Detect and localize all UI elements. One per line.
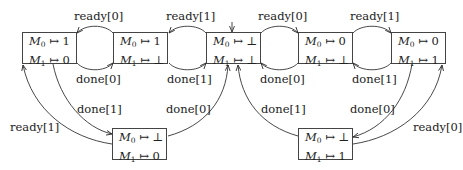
arrow-s1-s2-done0 — [77, 63, 113, 70]
label-done0-s6-s3: done[0] — [166, 103, 211, 116]
label-ready0-s3-s4: ready[0] — [258, 10, 307, 23]
label-done1-s2-s3: done[1] — [167, 73, 212, 86]
arrow-s2-s1-ready0 — [77, 26, 113, 33]
state-m0-1-m1-bot: M0 ↦ 1 M1 ↦ ⊥ — [113, 32, 168, 64]
label-ready0-s2-s1: ready[0] — [74, 10, 123, 23]
label-ready1-s6-s1: ready[1] — [10, 121, 59, 134]
arrow-s3-s4-ready0 — [261, 26, 298, 33]
arrow-s4-s3-done0 — [261, 63, 298, 70]
label-done0-s1-s2: done[0] — [76, 73, 121, 86]
arrow-s4-s5-ready1 — [353, 26, 391, 33]
label-done1-s5-s4: done[1] — [352, 73, 397, 86]
arrow-s5-s4-done1 — [353, 63, 391, 70]
state-m0-bot-m1-0: M0 ↦ ⊥ M1 ↦ 0 — [112, 128, 167, 160]
label-ready1-s3-s2: ready[1] — [166, 10, 215, 23]
state-m0-1-m1-0: M0 ↦ 1 M1 ↦ 0 — [22, 32, 77, 64]
state-m0-bot-m1-1: M0 ↦ ⊥ M1 ↦ 1 — [298, 128, 353, 160]
state-m0-0-m1-1: M0 ↦ 0 M1 ↦ 1 — [391, 32, 446, 64]
state-diagram: M0 ↦ 1 M1 ↦ 0 M0 ↦ 1 M1 ↦ ⊥ M0 ↦ ⊥ M1 ↦ … — [0, 0, 463, 170]
state-initial-m0-bot-m1-bot: M0 ↦ ⊥ M1 ↦ ⊥ — [206, 32, 261, 64]
label-ready1-s4-s5: ready[1] — [350, 10, 399, 23]
label-done0-s5-s7: done[0] — [350, 103, 395, 116]
label-done1-s1-s6: done[1] — [77, 103, 122, 116]
label-ready0-s7-s5: ready[0] — [413, 121, 462, 134]
state-m0-0-m1-bot: M0 ↦ 0 M1 ↦ ⊥ — [298, 32, 353, 64]
label-done0-s4-s3: done[0] — [260, 73, 305, 86]
arrow-s2-s3-done1 — [169, 63, 206, 70]
label-done1-s7-s3: done[1] — [261, 103, 306, 116]
arrow-s3-s2-ready1 — [169, 26, 206, 33]
